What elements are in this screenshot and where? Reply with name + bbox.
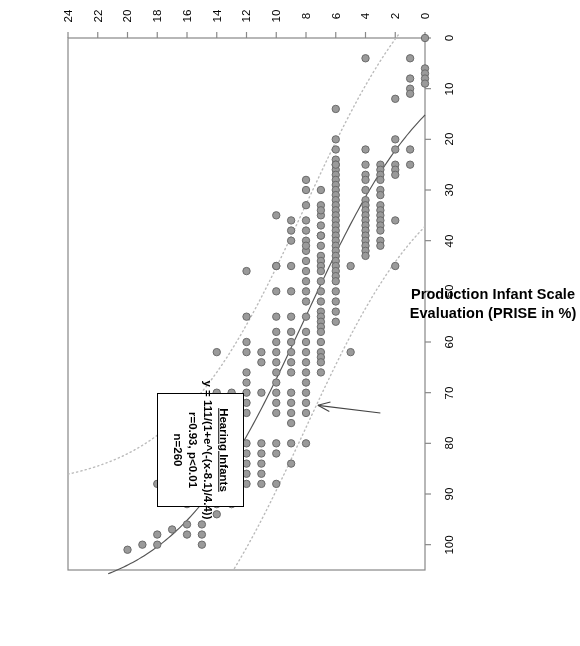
data-point [317, 298, 324, 305]
data-point [302, 267, 309, 274]
x-tick-label-14: 14 [211, 10, 223, 23]
data-point [287, 389, 294, 396]
x-tick-label-24: 24 [62, 10, 74, 23]
data-point [362, 186, 369, 193]
data-point [258, 348, 265, 355]
data-point [287, 399, 294, 406]
data-point [243, 313, 250, 320]
data-point [302, 288, 309, 295]
data-point [258, 389, 265, 396]
annotation-equation: y = 111/(1+e^(-(x-8.1)/4.4)) [200, 380, 215, 519]
y-tick-label-40: 40 [443, 234, 455, 247]
data-point [406, 75, 413, 82]
x-tick-label-18: 18 [151, 10, 163, 23]
data-point [258, 440, 265, 447]
data-point [332, 278, 339, 285]
y-tick-label-20: 20 [443, 133, 455, 146]
x-tick-label-8: 8 [300, 13, 312, 19]
data-point [154, 541, 161, 548]
data-point [258, 460, 265, 467]
data-point [406, 161, 413, 168]
data-point [287, 348, 294, 355]
data-point [287, 328, 294, 335]
annotation-arrow [318, 402, 380, 413]
data-point [302, 399, 309, 406]
x-tick-label-10: 10 [270, 10, 282, 23]
data-point [154, 531, 161, 538]
data-point [421, 34, 428, 41]
data-point [273, 338, 280, 345]
data-point [273, 389, 280, 396]
data-point [273, 480, 280, 487]
annotation-text: Hearing Infants y = 111/(1+e^(-(x-8.1)/4… [170, 380, 231, 519]
data-point [347, 348, 354, 355]
data-point [302, 298, 309, 305]
y-tick-label-100: 100 [443, 535, 455, 554]
data-point [317, 267, 324, 274]
data-point [287, 409, 294, 416]
data-point [302, 389, 309, 396]
data-point [362, 55, 369, 62]
y-axis-title: Production Infant Scale Evaluation (PRIS… [373, 285, 580, 322]
data-point [302, 328, 309, 335]
data-point [302, 379, 309, 386]
data-point [273, 328, 280, 335]
data-point [273, 399, 280, 406]
data-point [198, 531, 205, 538]
data-point [273, 440, 280, 447]
data-point [377, 227, 384, 234]
data-point [406, 90, 413, 97]
data-point [287, 369, 294, 376]
y-tick-label-80: 80 [443, 437, 455, 450]
data-point [362, 176, 369, 183]
data-point [183, 531, 190, 538]
data-point [377, 191, 384, 198]
data-point [287, 262, 294, 269]
data-point [302, 227, 309, 234]
data-point [273, 212, 280, 219]
data-point [317, 242, 324, 249]
data-point [198, 541, 205, 548]
data-point [287, 338, 294, 345]
data-point [392, 95, 399, 102]
data-point [273, 348, 280, 355]
x-tick-label-0: 0 [419, 13, 431, 19]
y-axis-title-line2: Evaluation (PRISE in %) [410, 305, 577, 321]
data-point [302, 348, 309, 355]
data-point [139, 541, 146, 548]
data-point [362, 252, 369, 259]
y-tick-label-10: 10 [443, 82, 455, 95]
data-point [243, 440, 250, 447]
annotation-sample-size: n=260 [170, 380, 185, 519]
data-point [198, 521, 205, 528]
data-point [287, 288, 294, 295]
annotation-title: Hearing Infants [219, 380, 231, 519]
data-point [317, 288, 324, 295]
data-point [302, 338, 309, 345]
data-point [287, 237, 294, 244]
data-point [317, 186, 324, 193]
y-tick-label-60: 60 [443, 336, 455, 349]
data-point [287, 217, 294, 224]
data-point [406, 146, 413, 153]
data-point [362, 146, 369, 153]
data-point [273, 409, 280, 416]
data-point [258, 450, 265, 457]
data-point [243, 399, 250, 406]
data-point [287, 227, 294, 234]
data-point [273, 450, 280, 457]
data-point [302, 369, 309, 376]
data-point [273, 313, 280, 320]
data-point [302, 217, 309, 224]
data-point [317, 328, 324, 335]
y-tick-label-70: 70 [443, 386, 455, 399]
data-point [406, 55, 413, 62]
data-point [317, 207, 324, 214]
data-point [183, 521, 190, 528]
plot-frame [68, 38, 425, 570]
data-point [421, 80, 428, 87]
annotation-stats: r=0.93, p<0.01 [185, 380, 200, 519]
fit-curve [108, 115, 425, 574]
data-point [243, 470, 250, 477]
data-point [243, 480, 250, 487]
